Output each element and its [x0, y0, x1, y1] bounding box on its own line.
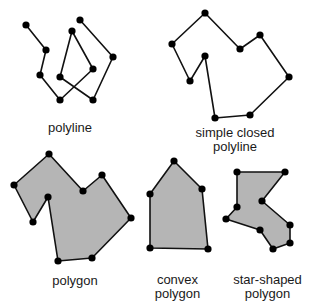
simple-closed-polyline-label-line2: polyline — [180, 140, 290, 154]
polygon-edges — [14, 154, 131, 261]
vertex-dot — [44, 193, 51, 200]
vertex-dot — [256, 31, 263, 38]
convex-polygon-label-line2: polygon — [145, 287, 210, 301]
vertex-dot — [54, 257, 61, 264]
vertex-dot — [201, 52, 208, 59]
polyline-figure — [22, 16, 116, 103]
star-shaped-polygon-label-line2: polygon — [225, 287, 310, 301]
simple-closed-polyline-figure — [168, 9, 292, 121]
vertex-dot — [56, 96, 63, 103]
vertex-dot — [146, 244, 153, 251]
star-shaped-polygon-edges — [226, 172, 290, 249]
vertex-dot — [22, 21, 29, 28]
vertex-dot — [146, 190, 153, 197]
vertex-dot — [222, 215, 229, 222]
simple-closed-polyline-label-line1: simple closed — [180, 126, 290, 140]
vertex-dot — [88, 254, 95, 261]
vertex-dot — [211, 114, 218, 121]
vertex-dot — [256, 226, 263, 233]
vertex-dot — [29, 218, 36, 225]
vertex-dot — [10, 181, 17, 188]
vertex-dot — [170, 157, 177, 164]
vertex-dot — [281, 168, 288, 175]
vertex-dot — [285, 73, 292, 80]
polygon-label: polygon — [45, 274, 105, 288]
convex-polygon-label-line1: convex — [145, 273, 210, 287]
vertex-dot — [89, 65, 96, 72]
star-shaped-polygon-label-line1: star-shaped — [225, 273, 310, 287]
star-shaped-polygon-figure — [222, 168, 293, 252]
convex-polygon-label: convex polygon — [145, 273, 210, 301]
diagram-canvas — [0, 0, 310, 308]
vertex-dot — [198, 185, 205, 192]
polygon-figure — [10, 150, 134, 264]
simple-closed-polyline-edges — [172, 13, 289, 118]
vertex-dot — [45, 150, 52, 157]
convex-polygon-edges — [150, 161, 208, 249]
vertex-dot — [233, 168, 240, 175]
vertex-dot — [68, 27, 75, 34]
vertex-dot — [98, 171, 105, 178]
vertex-dot — [76, 16, 83, 23]
vertex-dot — [258, 197, 265, 204]
polyline-label: polyline — [40, 121, 100, 135]
vertex-dot — [186, 77, 193, 84]
vertex-dot — [42, 46, 49, 53]
vertex-dot — [89, 96, 96, 103]
vertex-dot — [127, 214, 134, 221]
vertex-dot — [204, 245, 211, 252]
vertex-dot — [286, 239, 293, 246]
simple-closed-polyline-label: simple closed polyline — [180, 126, 290, 154]
vertex-dot — [79, 187, 86, 194]
star-shaped-polygon-label: star-shaped polygon — [225, 273, 310, 301]
vertex-dot — [109, 53, 116, 60]
vertex-dot — [36, 71, 43, 78]
convex-polygon-figure — [146, 157, 211, 252]
vertex-dot — [168, 40, 175, 47]
vertex-dot — [201, 9, 208, 16]
vertex-dot — [246, 111, 253, 118]
vertex-dot — [56, 73, 63, 80]
vertex-dot — [269, 245, 276, 252]
vertex-dot — [286, 221, 293, 228]
vertex-dot — [236, 45, 243, 52]
vertex-dot — [233, 203, 240, 210]
